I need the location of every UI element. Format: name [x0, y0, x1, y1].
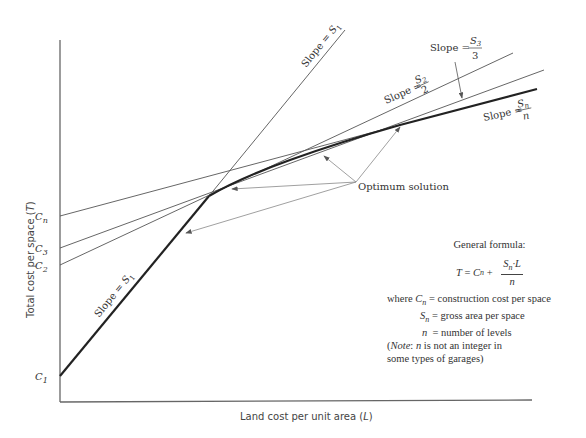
- formula-title: General formula:: [397, 238, 582, 251]
- tick-cn: Cn: [35, 211, 48, 225]
- svg-text:2: 2: [419, 83, 429, 96]
- def-sn: Sn = gross area per space: [387, 309, 582, 326]
- note-line-1: (Note: n is not an integer in: [387, 339, 582, 352]
- label-slope-s1-upper: Slope = S1: [299, 20, 344, 71]
- formula-block: General formula: T = Cn + Sn·L n where C…: [387, 238, 582, 365]
- x-axis-label: Land cost per unit area (L): [240, 411, 373, 422]
- label-optimum-solution: Optimum solution: [358, 181, 449, 192]
- tick-c3: C3: [35, 243, 48, 257]
- optimum-envelope: [209, 89, 537, 196]
- arrow-optimum-2: [324, 156, 356, 182]
- formula-equation: T = Cn + Sn·L n: [397, 257, 582, 288]
- arrow-optimum-4: [186, 182, 356, 233]
- def-cn: where Cn = construction cost per space: [387, 292, 582, 309]
- x-axis: [60, 400, 532, 402]
- formula-definitions: where Cn = construction cost per space S…: [387, 292, 582, 365]
- note-line-2: some types of garages): [387, 352, 582, 365]
- diagram-canvas: Cn C3 C2 C1 Total cost per space (T) Lan…: [0, 0, 586, 438]
- svg-text:3: 3: [472, 50, 478, 61]
- label-slope-s3: Slope = S3 3: [430, 35, 482, 61]
- def-n: n = number of levels: [387, 326, 582, 339]
- tick-c2: C2: [35, 260, 48, 274]
- svg-text:S3: S3: [470, 35, 482, 48]
- line-sn-thin: [60, 125, 400, 216]
- y-axis-label: Total cost per space (T): [25, 201, 36, 319]
- label-slope-s1-lower: Slope = S1: [92, 270, 137, 321]
- line-s2: [60, 53, 513, 265]
- svg-text:n: n: [522, 110, 531, 122]
- line-s1-thick: [60, 196, 209, 376]
- formula-fraction: Sn·L n: [501, 257, 523, 288]
- line-s3: [60, 70, 544, 248]
- tick-c1: C1: [35, 371, 48, 385]
- label-slope-s2: Slope = S2 2: [380, 71, 433, 112]
- svg-text:Slope =: Slope =: [430, 42, 470, 53]
